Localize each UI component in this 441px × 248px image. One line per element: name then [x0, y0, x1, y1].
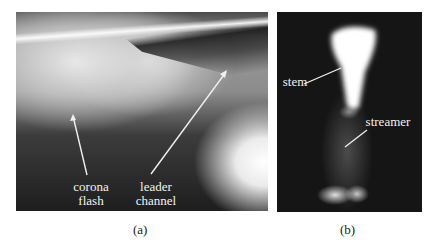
label-leader-channel: leader channel [126, 180, 186, 208]
label-channel: channel [126, 194, 186, 208]
photo-panel-b: stem streamer [277, 12, 422, 212]
label-streamer: streamer [357, 115, 419, 129]
label-corona: corona [66, 180, 116, 194]
label-flash: flash [66, 194, 116, 208]
label-leader: leader [126, 180, 186, 194]
caption-a: (a) [133, 222, 147, 238]
caption-b: (b) [340, 222, 355, 238]
label-stem: stem [281, 75, 309, 89]
stem-glow [277, 12, 422, 212]
photo-panel-a: corona flash leader channel [16, 12, 268, 211]
label-corona-flash: corona flash [66, 180, 116, 208]
